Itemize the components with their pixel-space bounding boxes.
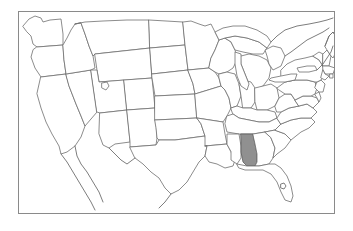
border-canada-great-lakes [271, 18, 333, 42]
coastline-mexico-gulf [159, 194, 171, 208]
state-nebraska [152, 70, 195, 96]
us-states-map [19, 12, 334, 213]
state-kansas [155, 94, 197, 120]
coastline-baja-california [61, 146, 103, 210]
state-washington [23, 16, 63, 47]
state-wyoming [95, 48, 152, 82]
map-border-frame [18, 11, 335, 214]
lake-erie [269, 74, 297, 82]
state-florida [237, 164, 293, 202]
border-mexico-west [109, 148, 135, 164]
map-figure [0, 0, 353, 231]
border-canada-st-lawrence [285, 28, 329, 56]
state-new-mexico [127, 108, 157, 147]
state-oregon [31, 45, 66, 77]
state-colorado [124, 78, 155, 110]
state-arizona [99, 110, 130, 148]
state-north-dakota [149, 20, 185, 48]
state-south-dakota [150, 45, 188, 74]
state-rhode-island [330, 74, 333, 78]
